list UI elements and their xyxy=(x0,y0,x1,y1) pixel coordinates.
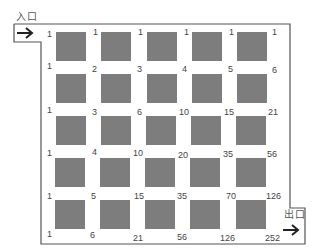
block-r1-c5 xyxy=(237,32,267,61)
block-r1-c2 xyxy=(101,32,131,61)
count-r4-c4: 70 xyxy=(226,192,236,201)
count-r2-c3: 10 xyxy=(179,108,189,117)
count-r0-c2: 1 xyxy=(138,28,143,37)
count-r0-c1: 1 xyxy=(93,28,98,37)
count-r3-c3: 20 xyxy=(178,151,188,160)
block-r2-c5 xyxy=(237,74,267,103)
count-r5-c1: 6 xyxy=(90,231,95,240)
block-r1-c4 xyxy=(192,32,222,61)
block-r4-c4 xyxy=(190,158,220,187)
exit-arrow-icon xyxy=(283,225,298,235)
block-r3-c3 xyxy=(146,116,176,145)
count-r5-c5: 252 xyxy=(265,234,280,243)
block-r4-c3 xyxy=(145,158,175,187)
entrance-arrow-icon xyxy=(17,28,32,38)
block-r4-c1 xyxy=(55,158,85,187)
block-r5-c1 xyxy=(55,200,85,229)
count-r2-c2: 6 xyxy=(137,108,142,117)
count-r0-c5: 1 xyxy=(272,28,277,37)
count-r2-c1: 3 xyxy=(92,108,97,117)
count-r5-c0: 1 xyxy=(47,230,52,239)
count-r1-c1: 2 xyxy=(92,65,97,74)
count-r4-c1: 5 xyxy=(91,192,96,201)
block-r1-c3 xyxy=(147,32,177,61)
block-r5-c3 xyxy=(145,200,175,229)
block-r5-c4 xyxy=(190,200,220,229)
block-r2-c1 xyxy=(56,74,86,103)
count-r4-c5: 126 xyxy=(266,192,281,201)
count-r3-c2: 10 xyxy=(133,149,143,158)
count-r4-c0: 1 xyxy=(47,192,52,201)
count-r1-c5: 6 xyxy=(272,66,277,75)
exit-label: 出口 xyxy=(284,206,306,221)
count-r3-c4: 35 xyxy=(223,150,233,159)
count-r0-c0: 1 xyxy=(47,30,52,39)
count-r1-c3: 4 xyxy=(182,65,187,74)
block-r2-c3 xyxy=(147,74,177,103)
block-r2-c2 xyxy=(101,74,131,103)
block-r3-c1 xyxy=(56,116,86,145)
count-r2-c4: 15 xyxy=(224,108,234,117)
count-r4-c2: 15 xyxy=(134,192,144,201)
block-r2-c4 xyxy=(192,74,222,103)
count-r5-c2: 21 xyxy=(133,234,143,243)
block-r4-c2 xyxy=(100,158,130,187)
block-r4-c5 xyxy=(236,158,266,187)
count-r1-c0: 1 xyxy=(47,62,52,71)
count-r1-c4: 5 xyxy=(228,65,233,74)
count-r2-c0: 1 xyxy=(47,106,52,115)
block-r3-c5 xyxy=(236,116,266,145)
count-r0-c3: 1 xyxy=(184,28,189,37)
count-r3-c1: 4 xyxy=(92,148,97,157)
count-r3-c5: 56 xyxy=(267,150,277,159)
count-r0-c4: 1 xyxy=(229,28,234,37)
count-r5-c3: 56 xyxy=(177,233,187,242)
count-r4-c3: 35 xyxy=(177,192,187,201)
entrance-label: 入口 xyxy=(16,8,38,23)
block-r3-c2 xyxy=(101,116,131,145)
count-r2-c5: 21 xyxy=(268,108,278,117)
block-r3-c4 xyxy=(191,116,221,145)
block-r5-c2 xyxy=(100,200,130,229)
block-r5-c5 xyxy=(236,200,266,229)
count-r3-c0: 1 xyxy=(47,149,52,158)
path-count-diagram: 入口 出口 1 1 1 1 1 1 1 2 3 4 5 6 1 3 6 10 1… xyxy=(0,0,321,252)
block-r1-c1 xyxy=(56,32,86,61)
count-r5-c4: 126 xyxy=(220,234,235,243)
count-r1-c2: 3 xyxy=(137,65,142,74)
